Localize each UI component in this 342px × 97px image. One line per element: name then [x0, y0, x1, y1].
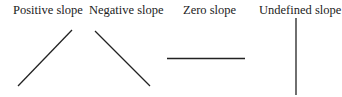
negative-slope-line [95, 31, 150, 86]
slope-diagram [0, 0, 342, 97]
positive-slope-line [18, 30, 72, 86]
